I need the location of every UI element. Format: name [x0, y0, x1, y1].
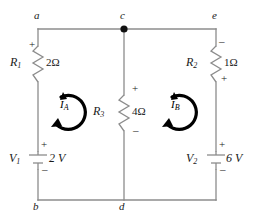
source-v2-polarity-bottom: –	[220, 164, 226, 175]
circuit-schematic-canvas	[0, 0, 254, 218]
node-label-b: b	[33, 201, 39, 212]
source-v1-name: V1	[9, 152, 20, 166]
source-v1-polarity-bottom: –	[42, 164, 48, 175]
resistor-r2-symbol	[211, 46, 221, 82]
mesh-current-label-ib: IB	[171, 99, 180, 112]
resistor-r2-polarity-bottom: +	[221, 73, 227, 84]
source-v2-value: 6 V	[226, 152, 242, 164]
resistor-r2-name: R2	[186, 56, 197, 70]
resistor-r1-name: R1	[10, 56, 21, 70]
resistor-r3-name: R3	[93, 105, 104, 119]
node-label-a: a	[34, 10, 40, 21]
node-label-c: c	[120, 10, 125, 21]
resistor-r2-polarity-top: –	[219, 36, 225, 47]
source-v1-value: 2 V	[49, 152, 65, 164]
source-v1-polarity-top: +	[41, 139, 47, 150]
mesh-current-label-ia: IA	[60, 99, 69, 112]
resistor-r3-polarity-top: +	[132, 83, 138, 94]
circuit-diagram: a c e b d R1 + 2Ω R3 + 4Ω – R2 – 1Ω + V1…	[0, 0, 254, 218]
source-v2-name: V2	[186, 152, 197, 166]
junction-dot-node-c	[120, 25, 127, 32]
resistor-r3-polarity-bottom: –	[133, 125, 139, 136]
resistor-r2-value: 1Ω	[224, 57, 238, 68]
resistor-r1-symbol	[33, 46, 43, 82]
source-v2-polarity-top: +	[219, 139, 225, 150]
node-label-e: e	[212, 10, 217, 21]
resistor-r3-symbol	[119, 95, 129, 131]
resistor-r1-value: 2Ω	[46, 57, 60, 68]
node-label-d: d	[119, 201, 125, 212]
resistor-r1-polarity-top: +	[29, 39, 35, 50]
resistor-r3-value: 4Ω	[132, 106, 146, 117]
